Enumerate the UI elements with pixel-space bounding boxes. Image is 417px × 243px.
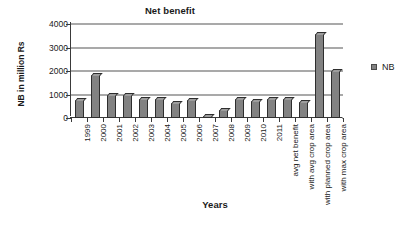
x-axis-tick-mark [151, 118, 152, 122]
x-axis-category-label: avg net benefit [291, 124, 300, 176]
x-axis-category-label: 2006 [195, 124, 204, 142]
bar[interactable] [171, 103, 180, 118]
x-axis-category-label: 2011 [275, 124, 284, 141]
plot-area [71, 24, 343, 118]
x-axis-tick-mark [311, 118, 312, 122]
bar[interactable] [75, 100, 84, 118]
y-axis-title: NB in million Rs [16, 26, 28, 122]
x-axis-category-label: 2010 [259, 124, 268, 142]
x-axis-tick-mark [279, 118, 280, 122]
x-axis-category-label: 2003 [147, 124, 156, 142]
x-axis-category-labels: 1999200020012002200320042005200620072008… [71, 124, 343, 206]
bar[interactable] [283, 99, 292, 118]
x-axis-category-label: 2004 [163, 124, 172, 142]
x-axis-tick-mark [87, 118, 88, 122]
x-axis-title: Years [160, 199, 270, 210]
x-axis-category-label: 2001 [115, 124, 124, 142]
y-axis-tick-mark [66, 95, 71, 96]
bar-slot [279, 24, 295, 118]
x-axis-tick-mark [295, 118, 296, 122]
x-axis-tick-mark [343, 118, 344, 122]
x-axis-tick-mark [119, 118, 120, 122]
x-axis-tick-mark [215, 118, 216, 122]
x-axis-category-label: 2000 [99, 124, 108, 142]
x-axis-tick-mark [135, 118, 136, 122]
x-axis-tick-mark [231, 118, 232, 122]
x-axis-category-label: 2008 [227, 124, 236, 142]
y-axis-tick-mark [66, 71, 71, 72]
bar[interactable] [315, 34, 324, 118]
x-axis-tick-mark [327, 118, 328, 122]
bar-slot [263, 24, 279, 118]
bar-slot [199, 24, 215, 118]
bar-slot [167, 24, 183, 118]
bar-slot [103, 24, 119, 118]
bar-slot [247, 24, 263, 118]
x-axis-tick-mark [247, 118, 248, 122]
x-axis-category-label: with max crop area [339, 124, 348, 192]
x-axis-category-label: with avg crop area [307, 124, 316, 189]
bar-slot [327, 24, 343, 118]
x-axis-tick-mark [263, 118, 264, 122]
x-axis-category-label: 2005 [179, 124, 188, 142]
bar-slot [231, 24, 247, 118]
bar-slot [71, 24, 87, 118]
bar[interactable] [91, 75, 100, 118]
bar[interactable] [139, 99, 148, 118]
bar[interactable] [107, 95, 116, 118]
bar-series-nb [71, 24, 343, 118]
x-axis-category-label: 2002 [131, 124, 140, 142]
bar-slot [295, 24, 311, 118]
bar[interactable] [235, 99, 244, 118]
bar[interactable] [251, 101, 260, 118]
legend-label-nb: NB [382, 62, 395, 72]
chart-legend: NB [371, 62, 395, 72]
bar[interactable] [123, 95, 132, 118]
x-axis-tick-mark [167, 118, 168, 122]
y-axis-tick-labels: 01000200030004000 [36, 24, 68, 118]
x-axis-category-label: 1999 [83, 124, 92, 142]
x-axis-tick-mark [71, 118, 72, 122]
y-axis-tick-mark [66, 24, 71, 25]
x-axis-tick-mark [199, 118, 200, 122]
bar-slot [215, 24, 231, 118]
bar-slot [87, 24, 103, 118]
bar[interactable] [299, 102, 308, 118]
bar-slot [151, 24, 167, 118]
bar-slot [135, 24, 151, 118]
legend-swatch-nb [371, 64, 377, 70]
bar[interactable] [267, 99, 276, 118]
x-axis-category-label: with planned crop area [323, 124, 332, 205]
bar[interactable] [331, 71, 340, 118]
bar[interactable] [155, 99, 164, 118]
bar-slot [119, 24, 135, 118]
bar[interactable] [219, 110, 228, 118]
bar-slot [183, 24, 199, 118]
x-axis-category-label: 2007 [211, 124, 220, 142]
x-axis-tick-mark [103, 118, 104, 122]
x-axis-category-label: 2009 [243, 124, 252, 142]
chart-title: Net benefit [0, 5, 340, 16]
x-axis-tick-mark [183, 118, 184, 122]
bar-slot [311, 24, 327, 118]
bar[interactable] [187, 100, 196, 118]
y-axis-tick-mark [66, 48, 71, 49]
net-benefit-bar-chart: Net benefit NB in million Rs 01000200030… [0, 0, 417, 243]
